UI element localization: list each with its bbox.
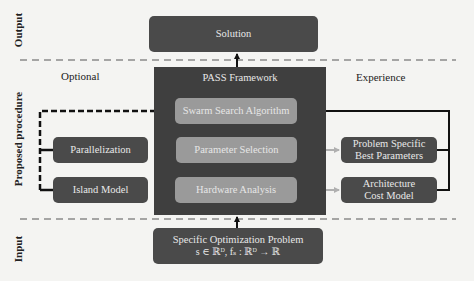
swarm-search-label: Swarm Search Algorithm	[183, 105, 290, 117]
optional-label: Optional	[61, 70, 100, 82]
cost-model-line2: Cost Model	[364, 190, 413, 202]
input-problem-formula: s ∈ ℝᴰ, fₛ : ℝᴰ → ℝ	[196, 246, 280, 258]
solution-box: Solution	[149, 16, 318, 52]
architecture-cost-model-box: Architecture Cost Model	[341, 177, 437, 203]
specific-optimization-problem-box: Specific Optimization Problem s ∈ ℝᴰ, fₛ…	[153, 228, 323, 264]
parameter-selection-box: Parameter Selection	[176, 137, 297, 163]
section-label-output: Output	[12, 10, 24, 50]
section-label-input: Input	[12, 233, 24, 265]
hardware-analysis-label: Hardware Analysis	[196, 184, 276, 196]
experience-label: Experience	[356, 71, 405, 83]
pass-framework-title: PASS Framework	[202, 72, 277, 84]
solution-label: Solution	[216, 28, 252, 40]
island-model-box: Island Model	[53, 177, 148, 203]
hardware-analysis-box: Hardware Analysis	[175, 177, 297, 203]
input-problem-title: Specific Optimization Problem	[173, 234, 304, 246]
parallelization-box: Parallelization	[53, 137, 148, 163]
best-parameters-line1: Problem Specific	[353, 138, 426, 150]
problem-specific-best-parameters-box: Problem Specific Best Parameters	[341, 137, 437, 163]
section-label-proposed: Proposed procedure	[12, 91, 24, 187]
swarm-search-algorithm-box: Swarm Search Algorithm	[175, 98, 297, 124]
parameter-selection-label: Parameter Selection	[194, 144, 278, 156]
parallelization-label: Parallelization	[70, 144, 131, 156]
island-model-label: Island Model	[73, 184, 129, 196]
cost-model-line1: Architecture	[363, 178, 415, 190]
best-parameters-line2: Best Parameters	[355, 150, 423, 162]
